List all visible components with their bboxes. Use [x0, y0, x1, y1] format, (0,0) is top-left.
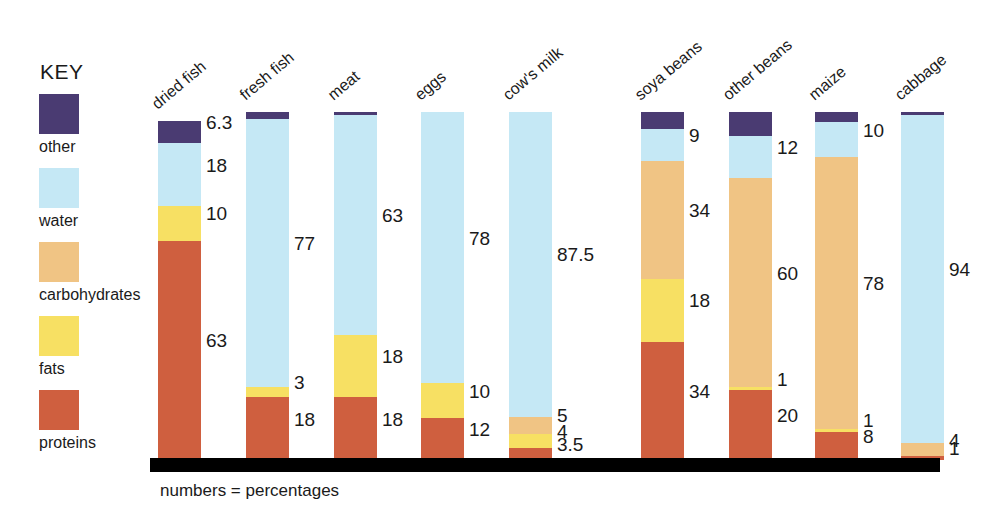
- segment-value-label: 63: [382, 206, 403, 225]
- bar-segment-water: [158, 143, 201, 206]
- segment-value-label: 3: [294, 373, 305, 392]
- bar-segment-carbohydrates: [641, 161, 684, 279]
- column-title: meat: [324, 67, 363, 104]
- bar-segment-other: [641, 112, 684, 129]
- stacked-bar: [246, 112, 289, 460]
- bar-segment-water: [641, 129, 684, 160]
- bar-segment-other: [815, 112, 858, 122]
- segment-value-label: 6.3: [206, 113, 232, 132]
- segment-value-label: 18: [689, 291, 710, 310]
- segment-value-label: 10: [206, 204, 227, 223]
- segment-value-label: 34: [689, 200, 710, 219]
- bar-segment-fats: [641, 279, 684, 342]
- bar-segment-other: [158, 121, 201, 143]
- segment-value-label: 77: [294, 233, 315, 252]
- bar-segment-fats: [246, 387, 289, 397]
- bar-segment-water: [509, 112, 552, 417]
- segment-value-label: 9: [689, 126, 700, 145]
- bar-segment-carbohydrates: [729, 178, 772, 387]
- column-title: cabbage: [891, 51, 950, 104]
- bar-column[interactable]: 1494cabbage: [901, 112, 944, 460]
- segment-value-label: 10: [469, 381, 490, 400]
- segment-value-label: 34: [689, 381, 710, 400]
- stacked-bar: [641, 112, 684, 460]
- segment-value-label: 1: [863, 411, 874, 430]
- segment-value-label: 5: [557, 406, 568, 425]
- bar-segment-water: [421, 112, 464, 383]
- column-title: fresh fish: [236, 48, 297, 104]
- stacked-bar-chart: 6310186.3dried fish18377fresh fish181863…: [0, 0, 981, 519]
- bar-segment-fats: [421, 383, 464, 418]
- bar-column[interactable]: 817810maize: [815, 112, 858, 460]
- bar-segment-water: [334, 115, 377, 334]
- segment-value-label: 12: [777, 138, 798, 157]
- column-title: other beans: [719, 36, 795, 104]
- bar-segment-carbohydrates: [815, 157, 858, 428]
- bar-segment-proteins: [815, 432, 858, 460]
- bar-segment-proteins: [334, 397, 377, 460]
- segment-value-label: 4: [949, 430, 960, 449]
- stacked-bar: [509, 112, 552, 460]
- segment-value-label: 78: [863, 273, 884, 292]
- bar-column[interactable]: 3.54587.5cow's milk: [509, 112, 552, 460]
- segment-value-label: 60: [777, 263, 798, 282]
- bar-segment-proteins: [158, 241, 201, 460]
- segment-value-label: 18: [382, 347, 403, 366]
- bar-segment-proteins: [641, 342, 684, 460]
- stacked-bar: [815, 112, 858, 460]
- column-title: maize: [805, 63, 849, 104]
- bar-column[interactable]: 181863meat: [334, 112, 377, 460]
- bar-segment-carbohydrates: [901, 443, 944, 457]
- bar-column[interactable]: 121078eggs: [421, 112, 464, 460]
- bar-segment-fats: [509, 434, 552, 448]
- bar-segment-water: [901, 115, 944, 442]
- column-title: soya beans: [631, 38, 705, 104]
- stacked-bar: [421, 112, 464, 460]
- bar-segment-water: [246, 119, 289, 387]
- bar-column[interactable]: 18377fresh fish: [246, 112, 289, 460]
- segment-value-label: 18: [206, 155, 227, 174]
- segment-value-label: 94: [949, 260, 970, 279]
- bar-segment-water: [815, 122, 858, 157]
- bar-segment-fats: [158, 206, 201, 241]
- bar-segment-water: [729, 136, 772, 178]
- segment-value-label: 10: [863, 120, 884, 139]
- bar-segment-other: [729, 112, 772, 136]
- chart-footnote: numbers = percentages: [160, 481, 339, 501]
- segment-value-label: 20: [777, 406, 798, 425]
- stacked-bar: [901, 112, 944, 460]
- stacked-bar: [334, 112, 377, 460]
- chart-baseline: [150, 458, 940, 472]
- segment-value-label: 63: [206, 331, 227, 350]
- segment-value-label: 12: [469, 420, 490, 439]
- stacked-bar: [729, 112, 772, 460]
- column-title: eggs: [411, 68, 449, 104]
- column-title: cow's milk: [499, 44, 566, 104]
- bar-segment-carbohydrates: [509, 417, 552, 434]
- segment-value-label: 78: [469, 228, 490, 247]
- bar-segment-proteins: [421, 418, 464, 460]
- segment-value-label: 87.5: [557, 245, 594, 264]
- bar-segment-proteins: [729, 390, 772, 460]
- segment-value-label: 18: [294, 409, 315, 428]
- bar-column[interactable]: 3418349soya beans: [641, 112, 684, 460]
- bar-column[interactable]: 2016012other beans: [729, 112, 772, 460]
- segment-value-label: 1: [777, 369, 788, 388]
- bar-segment-proteins: [246, 397, 289, 460]
- segment-value-label: 18: [382, 409, 403, 428]
- bar-segment-other: [246, 112, 289, 119]
- column-title: dried fish: [148, 58, 209, 114]
- stacked-bar: [158, 121, 201, 460]
- bar-segment-fats: [334, 335, 377, 398]
- bar-column[interactable]: 6310186.3dried fish: [158, 121, 201, 460]
